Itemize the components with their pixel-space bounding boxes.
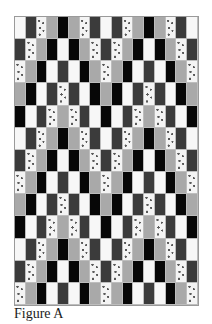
tile-white <box>47 172 58 194</box>
tile-gray <box>133 17 144 39</box>
tile-speckled <box>90 150 101 172</box>
tile-black <box>176 83 187 105</box>
tile-white <box>187 17 198 39</box>
tile-dark-gray <box>176 128 187 150</box>
tile-white <box>144 261 155 283</box>
tile-gray <box>80 39 91 61</box>
tile-white <box>155 61 166 83</box>
tile-speckled <box>15 172 26 194</box>
tile-dark-gray <box>166 106 177 128</box>
tile-white <box>80 194 91 216</box>
tile-white <box>37 194 48 216</box>
tile-white <box>187 239 198 261</box>
tile-dark-gray <box>37 106 48 128</box>
tile-gray <box>26 283 37 305</box>
tile-speckled <box>155 106 166 128</box>
tile-white <box>58 39 69 61</box>
tile-dark-gray <box>144 172 155 194</box>
tile-white <box>69 61 80 83</box>
tile-dark-gray <box>90 128 101 150</box>
tile-white <box>69 172 80 194</box>
tile-speckled <box>80 239 91 261</box>
tile-black <box>155 150 166 172</box>
tile-gray <box>112 283 123 305</box>
tile-black <box>69 150 80 172</box>
tile-dark-gray <box>15 261 26 283</box>
tile-dark-gray <box>90 239 101 261</box>
tile-black <box>112 194 123 216</box>
tile-dark-gray <box>101 261 112 283</box>
tile-dark-gray <box>133 194 144 216</box>
tile-dark-gray <box>166 216 177 238</box>
tile-speckled <box>176 150 187 172</box>
tile-white <box>15 17 26 39</box>
tile-dark-gray <box>187 150 198 172</box>
tile-gray <box>176 172 187 194</box>
tile-speckled <box>80 128 91 150</box>
tile-speckled <box>166 239 177 261</box>
tile-dark-gray <box>112 239 123 261</box>
tile-white <box>69 283 80 305</box>
tile-white <box>155 283 166 305</box>
tile-black <box>123 172 134 194</box>
tile-dark-gray <box>15 150 26 172</box>
tile-black <box>90 83 101 105</box>
tile-speckled <box>69 216 80 238</box>
tile-gray <box>26 61 37 83</box>
tile-black <box>187 106 198 128</box>
tile-black <box>47 39 58 61</box>
tile-speckled <box>58 194 69 216</box>
tile-dark-gray <box>26 239 37 261</box>
tile-dark-gray <box>47 194 58 216</box>
tile-black <box>69 261 80 283</box>
tile-gray <box>90 283 101 305</box>
tile-white <box>176 216 187 238</box>
tile-dark-gray <box>15 39 26 61</box>
tile-speckled <box>47 106 58 128</box>
tile-gray <box>101 194 112 216</box>
tile-black <box>133 150 144 172</box>
tile-black <box>112 83 123 105</box>
tile-white <box>133 172 144 194</box>
tile-black <box>37 283 48 305</box>
tile-dark-gray <box>133 83 144 105</box>
tile-speckled <box>37 128 48 150</box>
tile-gray <box>26 172 37 194</box>
tile-gray <box>69 17 80 39</box>
tile-gray <box>90 61 101 83</box>
tile-white <box>101 239 112 261</box>
tile-white <box>155 172 166 194</box>
tile-gray <box>187 83 198 105</box>
tile-speckled <box>26 39 37 61</box>
tile-black <box>101 106 112 128</box>
tile-black <box>26 83 37 105</box>
tile-speckled <box>15 283 26 305</box>
tile-black <box>176 194 187 216</box>
tile-black <box>69 39 80 61</box>
tile-speckled <box>176 39 187 61</box>
tile-dark-gray <box>187 261 198 283</box>
tile-speckled <box>80 17 91 39</box>
tile-white <box>90 106 101 128</box>
tile-gray <box>47 128 58 150</box>
tile-black <box>144 239 155 261</box>
tile-black <box>133 261 144 283</box>
tile-speckled <box>133 216 144 238</box>
tile-gray <box>155 17 166 39</box>
tile-gray <box>144 106 155 128</box>
tile-black <box>37 61 48 83</box>
tile-speckled <box>26 261 37 283</box>
tile-speckled <box>37 239 48 261</box>
tile-gray <box>37 261 48 283</box>
tile-white <box>123 194 134 216</box>
tile-black <box>144 128 155 150</box>
tile-black <box>123 283 134 305</box>
tile-dark-gray <box>90 17 101 39</box>
tile-gray <box>37 39 48 61</box>
tile-speckled <box>187 283 198 305</box>
tile-black <box>155 39 166 61</box>
tile-white <box>112 106 123 128</box>
tile-black <box>187 216 198 238</box>
tile-dark-gray <box>26 17 37 39</box>
tile-dark-gray <box>69 194 80 216</box>
